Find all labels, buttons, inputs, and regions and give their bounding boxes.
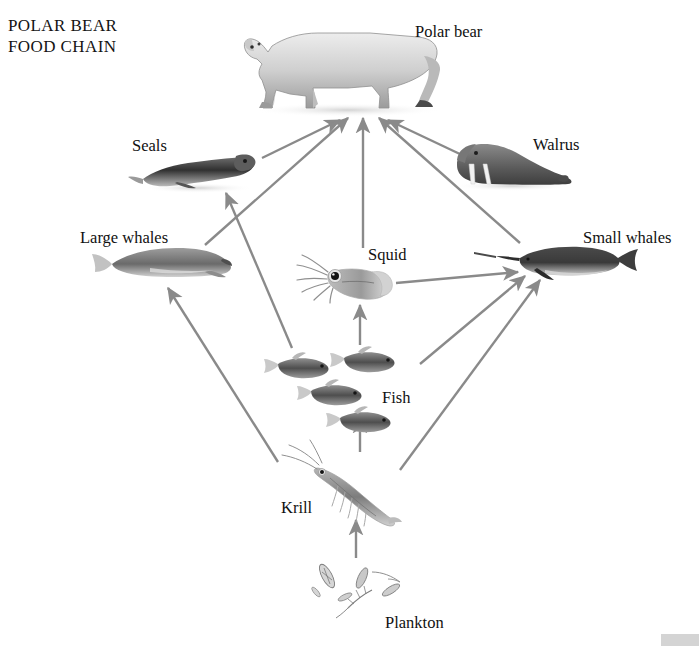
label-walrus: Walrus — [533, 135, 579, 155]
fish-illustration — [264, 352, 329, 378]
arrow-krill-to-small-whales — [400, 280, 540, 470]
label-seals: Seals — [132, 136, 167, 156]
arrow-squid-to-small-whales — [396, 272, 518, 283]
fish-illustration — [297, 379, 362, 405]
label-large-whales: Large whales — [80, 228, 168, 248]
diagram-canvas — [0, 0, 699, 650]
seal-illustration — [128, 155, 255, 193]
fish-illustration — [326, 406, 391, 432]
label-fish: Fish — [382, 388, 410, 408]
label-squid: Squid — [368, 245, 407, 265]
corner-artifact — [661, 634, 699, 646]
label-small-whales: Small whales — [583, 228, 671, 248]
plankton-illustration — [310, 562, 401, 618]
small-whale-illustration — [474, 247, 638, 280]
polar-bear-illustration — [244, 33, 443, 117]
label-polar-bear: Polar bear — [415, 22, 482, 42]
large-whale-illustration — [92, 248, 232, 277]
fish-illustration — [330, 346, 395, 372]
arrow-fish-to-seals — [226, 193, 292, 348]
label-krill: Krill — [281, 498, 312, 518]
arrow-large-whales-to-polar-bear — [205, 118, 348, 245]
arrow-seals-to-polar-bear — [262, 120, 340, 158]
arrow-krill-to-large-whales — [168, 288, 278, 462]
fish-group-illustration — [264, 346, 395, 432]
arrow-walrus-to-polar-bear — [388, 120, 462, 155]
label-plankton: Plankton — [385, 613, 444, 633]
